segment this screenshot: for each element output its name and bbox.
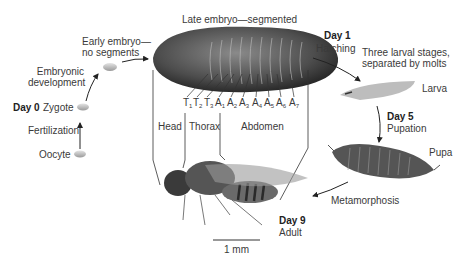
day5-label: Day 5 [387, 111, 414, 122]
segment-a4: A4 [252, 97, 262, 109]
early-embryo-label: Early embryo—no segments [82, 36, 151, 58]
segment-a7: A7 [289, 97, 299, 109]
larva-image [340, 81, 415, 100]
segment-a5: A5 [264, 97, 274, 109]
segment-t2: T2 [193, 97, 202, 109]
pupa-image [328, 144, 440, 178]
late-embryo-label: Late embryo—segmented [182, 14, 297, 25]
zygote-icon [77, 104, 89, 111]
larval-stages-label: Three larval stages,separated by molts [362, 47, 450, 69]
late-embryo-image [153, 27, 338, 92]
head-label: Head [158, 121, 182, 132]
zygote-label: Zygote [43, 102, 74, 113]
segment-t1: T1 [183, 97, 192, 109]
embryonic-development-label: Embryonicdevelopment [28, 66, 84, 88]
segment-a2: A2 [227, 97, 237, 109]
thorax-label: Thorax [189, 121, 220, 132]
oocyte-label: Oocyte [39, 149, 71, 160]
hatching-label: Hatching [316, 43, 355, 54]
day1-label: Day 1 [324, 30, 351, 41]
day0-label: Day 0 [13, 102, 40, 113]
day9-label: Day 9 [279, 215, 306, 226]
segment-t3: T3 [204, 97, 213, 109]
early-embryo-icon [103, 63, 117, 71]
metamorphosis-label: Metamorphosis [331, 195, 399, 206]
oocyte-icon [74, 151, 86, 158]
pupation-label: Pupation [387, 123, 426, 134]
abdomen-label: Abdomen [241, 121, 284, 132]
segment-a1: A1 [215, 97, 225, 109]
pupa-label: Pupa [429, 147, 452, 158]
segment-a6: A6 [276, 97, 286, 109]
scale-bar-label: 1 mm [224, 244, 249, 255]
segment-a3: A3 [239, 97, 249, 109]
adult-label: Adult [279, 227, 302, 238]
larva-label: Larva [422, 83, 447, 94]
fertilization-label: Fertilization [28, 125, 79, 136]
